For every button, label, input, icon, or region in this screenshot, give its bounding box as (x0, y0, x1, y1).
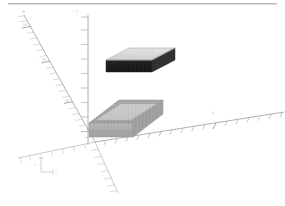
scene-3d[interactable]: 0 (0, 0, 285, 206)
z-axis-ticks (81, 17, 88, 132)
axis-indicator-gizmo[interactable]: z x (34, 158, 57, 175)
gizmo-label-x: x (55, 171, 57, 175)
upper-box[interactable] (106, 48, 175, 72)
y-axis: 10 30 50 (18, 15, 96, 142)
x-axis-tick-label: 0 (212, 111, 214, 115)
y-axis-ticks (18, 16, 93, 138)
viewport-root: a —| (0, 0, 285, 206)
y-axis-tick-label-10: 10 (65, 99, 69, 103)
y-axis-tick-label-30: 30 (42, 58, 46, 62)
x-axis-negative-ticks (20, 144, 86, 162)
y-axis-tick-label-50: 50 (23, 23, 27, 27)
gizmo-label-z: z (34, 163, 36, 167)
y-axis-negative (91, 142, 118, 193)
lower-box[interactable] (89, 100, 163, 137)
x-axis-negative (18, 142, 95, 163)
y-axis-negative-ticks (91, 149, 117, 192)
